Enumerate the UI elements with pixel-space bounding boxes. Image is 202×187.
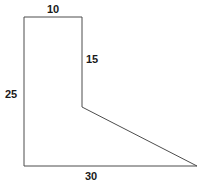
figure-outline-svg [0,0,202,187]
dimension-label-left: 25 [5,89,17,100]
dimension-label-top: 10 [0,4,106,15]
geometry-figure: 10 15 25 30 [0,0,202,187]
dimension-label-inner-vertical: 15 [86,54,98,65]
dimension-label-bottom: 30 [24,171,158,182]
shape-outline [24,17,197,166]
